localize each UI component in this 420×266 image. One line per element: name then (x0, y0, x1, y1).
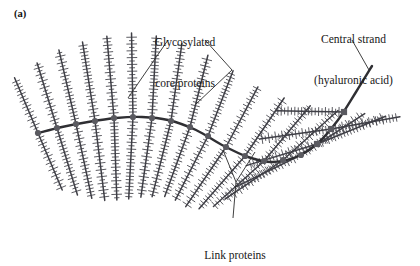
core-protein-bristle (199, 156, 245, 209)
core-protein-bristle (92, 121, 109, 200)
link-protein-node (328, 126, 334, 132)
link-protein-node (54, 125, 60, 131)
core-protein-bristle (183, 147, 226, 207)
link-protein-node (242, 153, 248, 159)
label-link-proteins: Link proteins (181, 222, 289, 266)
label-central-line2: (hyaluronic acid) (291, 74, 416, 88)
label-glycosylated-line2: core proteins (133, 77, 237, 91)
core-protein-bristle (125, 117, 138, 199)
label-central-line1: Central strand (291, 33, 416, 47)
link-protein-node (298, 152, 304, 158)
link-protein-node (205, 133, 211, 139)
link-protein-node (92, 118, 98, 124)
core-protein-bristle (73, 124, 95, 198)
link-protein-node (187, 124, 193, 130)
link-protein-node (73, 121, 79, 127)
link-protein-node (130, 114, 136, 120)
label-glycosylated-line1: Glycosylated (133, 36, 237, 50)
core-protein-bristle (137, 118, 155, 197)
link-protein-node (341, 109, 347, 115)
core-protein-bristle (13, 78, 40, 133)
link-protein-node (280, 157, 286, 163)
label-glycosylated-core-proteins: Glycosylated core proteins (133, 9, 237, 104)
core-protein-bristle (34, 63, 59, 128)
link-protein-node (111, 115, 117, 121)
link-protein-node (168, 118, 174, 124)
link-protein-node (314, 141, 320, 147)
label-central-strand: Central strand (hyaluronic acid) (291, 6, 416, 101)
core-protein-bristle (79, 42, 99, 121)
core-protein-bristle (56, 50, 79, 124)
link-protein-node (149, 115, 155, 121)
link-protein-node (35, 130, 41, 136)
leader-line-link-left (223, 150, 236, 218)
label-link-line1: Link proteins (181, 249, 289, 263)
core-protein-bristle (245, 98, 287, 156)
core-protein-bristle (103, 36, 118, 118)
link-protein-node (223, 144, 229, 150)
core-protein-bristle (110, 118, 121, 200)
link-protein-node (261, 158, 267, 164)
